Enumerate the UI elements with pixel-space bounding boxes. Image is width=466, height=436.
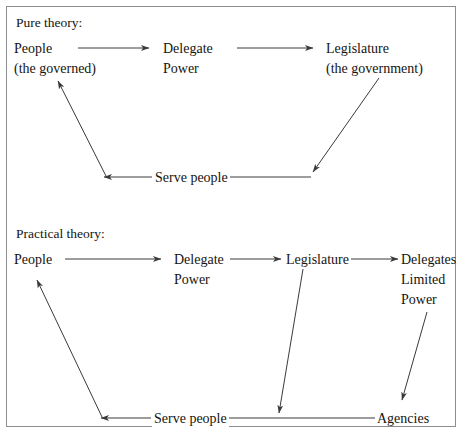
node-people-practical: People xyxy=(14,250,52,270)
node-legislature-practical: Legislature xyxy=(286,250,349,270)
node-delegates-limited-power-line1: Delegates xyxy=(401,250,456,270)
edge-delegates-to-agencies-practical xyxy=(402,312,427,400)
node-delegate-power-practical: Delegate Power xyxy=(174,250,224,290)
node-people-pure: People (the governed) xyxy=(14,39,96,79)
node-legislature-pure: Legislature (the government) xyxy=(326,39,423,79)
node-legislature-pure-line1: Legislature xyxy=(326,39,423,59)
edge-return-to-people-pure xyxy=(58,81,106,176)
edge-label-serve-people-pure: Serve people xyxy=(153,168,230,188)
node-people-practical-line1: People xyxy=(14,250,52,270)
node-delegates-limited-power-line2: Limited xyxy=(401,270,456,290)
node-agencies: Agencies xyxy=(377,409,429,429)
edge-label-serve-people-practical: Serve people xyxy=(152,409,229,429)
node-delegate-power-pure-line1: Delegate xyxy=(163,39,213,59)
edge-return-to-people-practical xyxy=(37,280,102,417)
node-people-pure-line1: People xyxy=(14,39,96,59)
node-legislature-practical-line1: Legislature xyxy=(286,250,349,270)
figure-canvas: o o xyxy=(0,0,466,436)
node-delegates-limited-power-line3: Power xyxy=(401,290,456,310)
section-title-pure: Pure theory: xyxy=(16,13,82,33)
node-delegates-limited-power: Delegates Limited Power xyxy=(401,250,456,310)
edge-legislature-down-pure xyxy=(313,78,379,172)
node-delegate-power-pure: Delegate Power xyxy=(163,39,213,79)
node-delegate-power-pure-line2: Power xyxy=(163,59,213,79)
node-delegate-power-practical-line1: Delegate xyxy=(174,250,224,270)
node-legislature-pure-line2: (the government) xyxy=(326,59,423,79)
node-delegate-power-practical-line2: Power xyxy=(174,270,224,290)
section-title-practical: Practical theory: xyxy=(16,224,105,244)
node-people-pure-line2: (the governed) xyxy=(14,59,96,79)
edge-legislature-down-practical xyxy=(279,269,303,413)
